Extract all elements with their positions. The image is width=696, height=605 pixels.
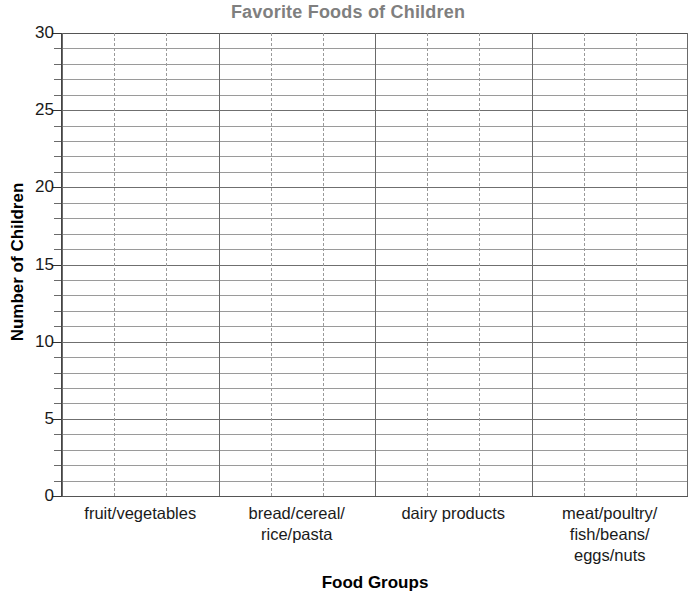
y-tick-minor	[54, 95, 61, 96]
x-category-label-line: eggs/nuts	[532, 545, 689, 566]
gridline-category-boundary	[532, 33, 533, 496]
y-tick-minor	[54, 156, 61, 157]
y-tick-minor	[54, 234, 61, 235]
y-tick-label: 30	[14, 24, 54, 41]
y-tick-minor	[54, 141, 61, 142]
y-axis-spine	[61, 33, 62, 497]
y-tick-minor	[54, 280, 61, 281]
y-tick-minor	[54, 64, 61, 65]
gridline-vertical-dashed	[427, 33, 428, 496]
gridline-vertical-dashed	[271, 33, 272, 496]
gridline-category-boundary	[687, 33, 688, 496]
y-tick-minor	[54, 481, 61, 482]
gridline-vertical-dashed	[323, 33, 324, 496]
y-tick-minor	[54, 79, 61, 80]
y-tick-minor	[54, 434, 61, 435]
y-tick-label: 0	[14, 487, 54, 504]
y-tick-minor	[54, 311, 61, 312]
gridline-vertical-dashed	[584, 33, 585, 496]
gridline-vertical-dashed	[114, 33, 115, 496]
chart-title: Favorite Foods of Children	[0, 0, 696, 24]
x-category-label-line: rice/pasta	[219, 524, 376, 545]
gridline-category-boundary	[375, 33, 376, 496]
y-tick-label: 20	[14, 178, 54, 195]
x-category-label-line: fruit/vegetables	[62, 503, 219, 524]
gridline-vertical-dashed	[636, 33, 637, 496]
y-tick-minor	[54, 203, 61, 204]
x-category-label: fruit/vegetables	[62, 503, 219, 524]
gridline-category-boundary	[219, 33, 220, 496]
y-tick-minor	[54, 373, 61, 374]
gridline-horizontal	[62, 496, 688, 497]
x-category-label: dairy products	[375, 503, 532, 524]
y-tick-label: 5	[14, 410, 54, 427]
x-category-label: meat/poultry/fish/beans/eggs/nuts	[532, 503, 689, 566]
gridline-vertical-dashed	[166, 33, 167, 496]
y-tick-minor	[54, 403, 61, 404]
x-category-label: bread/cereal/rice/pasta	[219, 503, 376, 545]
x-axis-category-labels: fruit/vegetablesbread/cereal/rice/pastad…	[62, 503, 688, 571]
y-tick-minor	[54, 326, 61, 327]
y-tick-minor	[54, 388, 61, 389]
x-category-label-line: fish/beans/	[532, 524, 689, 545]
x-category-label-line: dairy products	[375, 503, 532, 524]
y-tick-minor	[54, 249, 61, 250]
y-tick-label: 10	[14, 333, 54, 350]
x-category-label-line: bread/cereal/	[219, 503, 376, 524]
y-tick-label: 15	[14, 256, 54, 273]
gridline-category-boundary	[62, 33, 63, 496]
y-tick-minor	[54, 295, 61, 296]
y-tick-minor	[54, 126, 61, 127]
gridline-vertical-dashed	[479, 33, 480, 496]
y-tick-minor	[54, 465, 61, 466]
y-tick-minor	[54, 172, 61, 173]
x-category-label-line: meat/poultry/	[532, 503, 689, 524]
y-tick-minor	[54, 48, 61, 49]
y-tick-minor	[54, 218, 61, 219]
y-tick-minor	[54, 357, 61, 358]
y-tick-minor	[54, 450, 61, 451]
x-axis-title: Food Groups	[62, 573, 688, 593]
y-tick-label: 25	[14, 101, 54, 118]
plot-area	[62, 33, 688, 496]
